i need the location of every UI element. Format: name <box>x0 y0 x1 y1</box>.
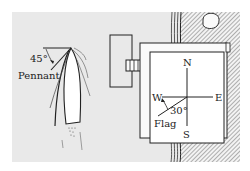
pennant-label: Pennant <box>18 70 60 81</box>
flag-label: Flag <box>154 118 177 129</box>
compass-north-label: N <box>183 57 192 68</box>
diagram-canvas: N S E W 30° Flag 45° Penna <box>0 0 250 171</box>
pennant-angle-label: 45° <box>30 53 48 64</box>
compass-east-label: E <box>215 92 222 103</box>
compass-south-label: S <box>183 129 190 140</box>
rock-icon <box>203 13 219 28</box>
dock-end-cap <box>226 43 230 52</box>
flag-angle-label: 30° <box>170 105 188 116</box>
